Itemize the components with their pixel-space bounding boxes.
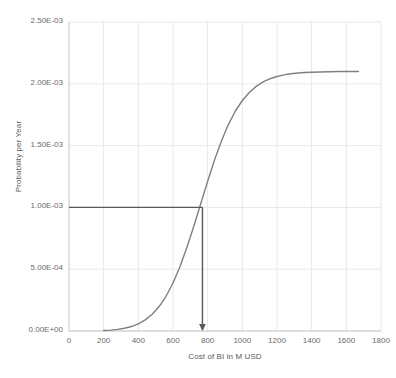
series-line-0 [104, 71, 359, 330]
reference-cost-arrow-head [199, 324, 206, 331]
axis-lines [69, 22, 381, 331]
data-series [104, 71, 359, 330]
gridlines [69, 22, 381, 331]
plot-canvas [0, 0, 396, 378]
probability-vs-cost-chart: Probability per Year Cost of BI in M USD… [0, 0, 396, 378]
